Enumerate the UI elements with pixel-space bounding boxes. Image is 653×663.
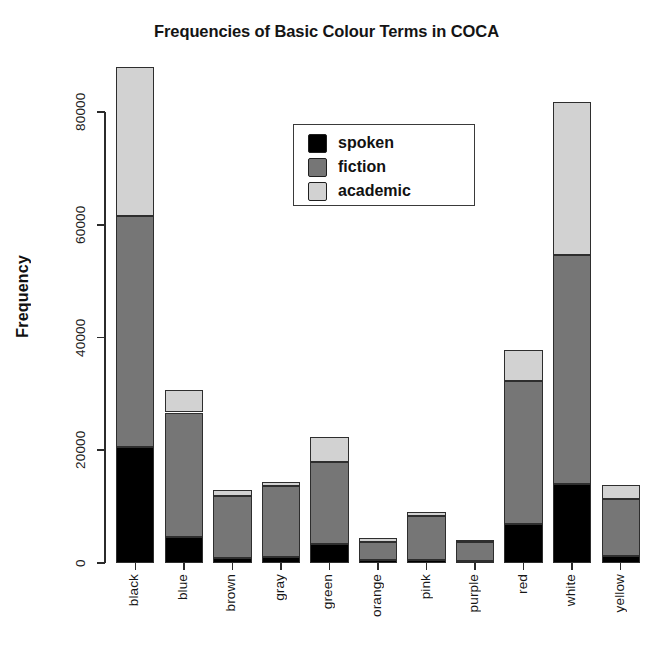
bar-segment-orange-academic bbox=[359, 538, 397, 542]
bar-purple[interactable] bbox=[456, 540, 494, 563]
bar-segment-white-spoken bbox=[553, 484, 591, 563]
bar-segment-yellow-spoken bbox=[602, 556, 640, 563]
x-tick-black bbox=[135, 563, 136, 570]
x-label-purple: purple bbox=[466, 574, 484, 612]
chart-figure: Frequencies of Basic Colour Terms in COC… bbox=[0, 0, 653, 663]
x-label-yellow: yellow bbox=[612, 574, 630, 612]
bar-white[interactable] bbox=[553, 102, 591, 563]
x-tick-brown bbox=[232, 563, 233, 570]
x-label-pink: pink bbox=[418, 574, 436, 599]
x-label-brown: brown bbox=[223, 574, 241, 612]
bar-segment-yellow-academic bbox=[602, 485, 640, 499]
bar-segment-yellow-fiction bbox=[602, 499, 640, 556]
x-label-black: black bbox=[126, 574, 144, 606]
x-label-orange: orange bbox=[369, 574, 387, 617]
plot-area: 020000400006000080000 Frequency blackblu… bbox=[0, 0, 653, 663]
bar-black[interactable] bbox=[116, 67, 154, 563]
bar-segment-white-academic bbox=[553, 102, 591, 254]
bar-segment-black-academic bbox=[116, 67, 154, 216]
x-tick-yellow bbox=[620, 563, 621, 570]
x-label-white: white bbox=[563, 574, 581, 606]
x-tick-red bbox=[523, 563, 524, 570]
bar-segment-purple-academic bbox=[456, 540, 494, 542]
bar-segment-pink-fiction bbox=[407, 516, 445, 560]
x-tick-green bbox=[329, 563, 330, 570]
chart-legend: spoken fiction academic bbox=[293, 124, 475, 206]
legend-item-fiction: fiction bbox=[308, 155, 474, 179]
legend-label-academic: academic bbox=[338, 183, 411, 199]
bar-segment-blue-fiction bbox=[165, 413, 203, 537]
bar-green[interactable] bbox=[310, 437, 348, 563]
bar-segment-black-fiction bbox=[116, 216, 154, 447]
bar-blue[interactable] bbox=[165, 390, 203, 563]
bar-segment-green-fiction bbox=[310, 462, 348, 544]
bar-segment-red-spoken bbox=[504, 524, 542, 563]
legend-label-spoken: spoken bbox=[338, 135, 394, 151]
bar-segment-gray-fiction bbox=[262, 486, 300, 557]
bar-segment-brown-academic bbox=[213, 490, 251, 496]
bar-segment-blue-academic bbox=[165, 390, 203, 413]
x-label-green: green bbox=[320, 574, 338, 609]
bar-segment-purple-fiction bbox=[456, 542, 494, 561]
legend-label-fiction: fiction bbox=[338, 159, 386, 175]
bar-segment-orange-fiction bbox=[359, 542, 397, 561]
legend-swatch-fiction-icon bbox=[308, 158, 327, 177]
bar-orange[interactable] bbox=[359, 538, 397, 563]
bars-layer bbox=[0, 0, 653, 663]
legend-item-academic: academic bbox=[308, 179, 474, 203]
x-tick-white bbox=[571, 563, 572, 570]
x-tick-gray bbox=[280, 563, 281, 570]
bar-brown[interactable] bbox=[213, 490, 251, 563]
bar-segment-red-academic bbox=[504, 350, 542, 380]
x-tick-purple bbox=[474, 563, 475, 570]
bar-segment-brown-fiction bbox=[213, 496, 251, 558]
bar-pink[interactable] bbox=[407, 512, 445, 563]
legend-item-spoken: spoken bbox=[308, 131, 474, 155]
x-label-red: red bbox=[515, 574, 533, 594]
bar-segment-red-fiction bbox=[504, 381, 542, 524]
bar-segment-white-fiction bbox=[553, 255, 591, 484]
x-label-gray: gray bbox=[272, 574, 290, 601]
x-tick-blue bbox=[183, 563, 184, 570]
bar-gray[interactable] bbox=[262, 482, 300, 563]
bar-segment-blue-spoken bbox=[165, 537, 203, 563]
bar-segment-gray-academic bbox=[262, 482, 300, 486]
x-label-blue: blue bbox=[175, 574, 193, 600]
legend-swatch-spoken-icon bbox=[308, 134, 327, 153]
bar-segment-pink-academic bbox=[407, 512, 445, 515]
bar-segment-green-academic bbox=[310, 437, 348, 462]
bar-red[interactable] bbox=[504, 350, 542, 563]
bar-segment-green-spoken bbox=[310, 544, 348, 563]
x-tick-pink bbox=[426, 563, 427, 570]
bar-yellow[interactable] bbox=[602, 485, 640, 563]
x-tick-orange bbox=[377, 563, 378, 570]
bar-segment-black-spoken bbox=[116, 447, 154, 563]
legend-swatch-academic-icon bbox=[308, 182, 327, 201]
